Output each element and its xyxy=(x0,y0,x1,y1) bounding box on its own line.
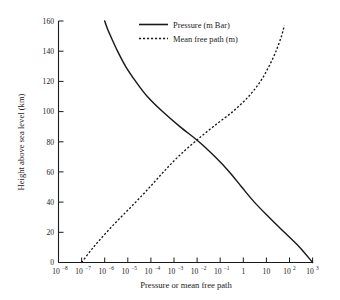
y-axis-title: Height above sea level (km) xyxy=(16,93,26,190)
svg-text:−8: −8 xyxy=(62,265,68,271)
svg-text:−6: −6 xyxy=(108,265,114,271)
svg-text:10: 10 xyxy=(145,267,153,276)
y-tick-label: 20 xyxy=(46,228,54,237)
x-tick-label: 10 −5 xyxy=(122,265,138,276)
svg-text:10: 10 xyxy=(168,267,176,276)
x-tick-label: 10 −2 xyxy=(191,265,207,276)
svg-text:10: 10 xyxy=(122,267,130,276)
x-tick-label: 10 xyxy=(263,267,271,276)
x-tick-label: 10 −6 xyxy=(98,265,114,276)
svg-text:1: 1 xyxy=(241,267,245,276)
pressure-curve xyxy=(105,21,313,263)
svg-text:3: 3 xyxy=(316,265,319,271)
svg-text:2: 2 xyxy=(293,265,296,271)
y-tick-label: 80 xyxy=(46,138,54,147)
svg-text:10: 10 xyxy=(75,267,83,276)
y-tick-label: 140 xyxy=(43,47,55,56)
y-tick-label: 0 xyxy=(50,258,54,267)
chart-plot-area: 0 20 40 60 80 100 120 140 160 Height abo… xyxy=(0,0,340,300)
y-axis-tick-labels: 0 20 40 60 80 100 120 140 160 xyxy=(43,17,55,267)
chart-legend: Pressure (m Bar) Mean free path (m) xyxy=(139,21,238,44)
legend-label-pressure: Pressure (m Bar) xyxy=(173,21,230,30)
x-tick-label: 10 −4 xyxy=(145,265,161,276)
svg-text:−1: −1 xyxy=(224,265,230,271)
svg-text:−7: −7 xyxy=(85,265,91,271)
svg-text:10: 10 xyxy=(98,267,106,276)
svg-text:10: 10 xyxy=(283,267,291,276)
svg-text:−2: −2 xyxy=(201,265,207,271)
y-tick-label: 100 xyxy=(43,107,55,116)
y-tick-label: 40 xyxy=(46,198,54,207)
x-axis-title: Pressure or mean free path xyxy=(140,280,232,290)
y-tick-label: 120 xyxy=(43,77,55,86)
svg-text:−3: −3 xyxy=(178,265,184,271)
y-tick-label: 60 xyxy=(46,168,54,177)
svg-text:−4: −4 xyxy=(154,265,160,271)
x-tick-label: 10 −3 xyxy=(168,265,184,276)
y-tick-label: 160 xyxy=(43,17,55,26)
svg-text:10: 10 xyxy=(214,267,222,276)
x-axis-tick-labels: 10 −8 10 −7 10 −6 10 −5 10 −4 10 −3 xyxy=(52,265,319,276)
x-axis-ticks xyxy=(59,258,313,263)
x-tick-label: 10 −7 xyxy=(75,265,91,276)
svg-text:10: 10 xyxy=(306,267,314,276)
svg-text:−5: −5 xyxy=(131,265,137,271)
x-tick-label: 10 2 xyxy=(283,265,296,276)
mean-free-path-curve xyxy=(82,26,285,263)
y-axis-ticks xyxy=(59,21,64,263)
svg-text:10: 10 xyxy=(191,267,199,276)
x-tick-label: 10 −8 xyxy=(52,265,68,276)
x-tick-label: 10 3 xyxy=(306,265,319,276)
legend-label-mean-free-path: Mean free path (m) xyxy=(173,35,238,44)
x-tick-label: 1 xyxy=(241,267,245,276)
svg-text:10: 10 xyxy=(52,267,60,276)
x-tick-label: 10 −1 xyxy=(214,265,230,276)
chart-figure: 0 20 40 60 80 100 120 140 160 Height abo… xyxy=(0,0,340,300)
svg-text:10: 10 xyxy=(263,267,271,276)
